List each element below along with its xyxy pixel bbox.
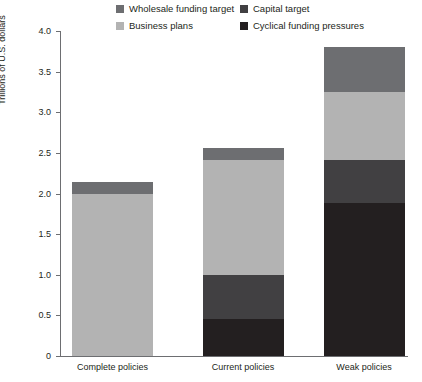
legend-label: Wholesale funding target xyxy=(129,4,234,14)
bar-segment-cyclical-funding-pressures xyxy=(324,203,405,356)
bar-segment-cyclical-funding-pressures xyxy=(203,319,284,356)
x-axis-line xyxy=(60,356,408,357)
legend-label: Cyclical funding pressures xyxy=(253,21,364,31)
legend-label: Capital target xyxy=(253,4,310,14)
legend-label: Business plans xyxy=(129,21,193,31)
x-axis-tick-label: Weak policies xyxy=(304,362,422,372)
bar-segment-wholesale-funding-target xyxy=(203,148,284,160)
legend-item-capital-target: Capital target xyxy=(240,4,310,14)
bar-current-policies xyxy=(203,31,284,356)
bar-segment-business-plans xyxy=(72,194,153,357)
bar-complete-policies xyxy=(72,31,153,356)
x-axis-tick-label: Current policies xyxy=(183,362,303,372)
y-axis-tick-label: 4.0 xyxy=(0,27,51,36)
y-axis-tick-label: 1.5 xyxy=(0,230,51,239)
bar-weak-policies xyxy=(324,31,405,356)
y-axis-tick-label: 0 xyxy=(0,352,51,361)
legend-item-wholesale-funding-target: Wholesale funding target xyxy=(116,4,234,14)
y-axis-tick-label: 2.0 xyxy=(0,190,51,199)
bar-segment-capital-target xyxy=(324,160,405,203)
legend-swatch-icon xyxy=(116,22,124,30)
bar-segment-business-plans xyxy=(324,92,405,160)
y-axis-tick-label: 0.5 xyxy=(0,311,51,320)
x-axis-tick-label: Complete policies xyxy=(53,362,173,372)
bar-segment-capital-target xyxy=(203,275,284,320)
y-axis-tick-label: 2.5 xyxy=(0,149,51,158)
y-axis-tick xyxy=(56,356,60,357)
legend-item-cyclical-funding-pressures: Cyclical funding pressures xyxy=(240,21,364,31)
bar-segment-wholesale-funding-target xyxy=(324,47,405,92)
plot-area xyxy=(60,31,408,356)
stacked-bar-chart: Wholesale funding target Capital target … xyxy=(0,0,422,382)
legend-swatch-icon xyxy=(116,5,124,13)
y-axis-tick-label: 1.0 xyxy=(0,271,51,280)
y-axis-title: Trillions of U.S. dollars xyxy=(0,0,7,120)
legend-swatch-icon xyxy=(240,5,248,13)
legend-swatch-icon xyxy=(240,22,248,30)
legend-item-business-plans: Business plans xyxy=(116,21,193,31)
y-axis-tick-label: 3.0 xyxy=(0,108,51,117)
bar-segment-business-plans xyxy=(203,160,284,275)
y-axis-tick-label: 3.5 xyxy=(0,68,51,77)
bar-segment-wholesale-funding-target xyxy=(72,182,153,193)
